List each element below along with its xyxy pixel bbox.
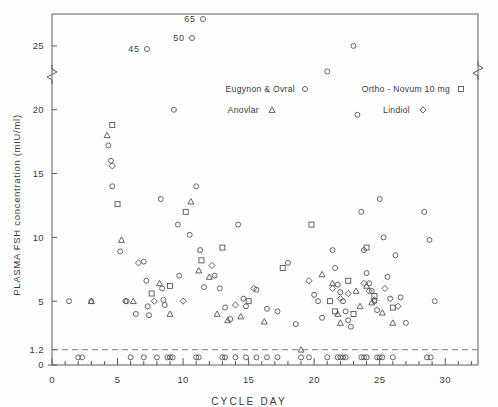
data-point-baseline (390, 355, 395, 360)
legend-marker-triangle (269, 107, 275, 112)
data-point-baseline (128, 355, 133, 360)
legend-symbol (303, 87, 308, 92)
data-point (329, 285, 335, 291)
data-point (110, 184, 115, 189)
data-point (212, 273, 217, 278)
data-point (427, 237, 432, 242)
y-axis-break-left (47, 65, 57, 84)
data-point (194, 184, 199, 189)
data-point (108, 158, 113, 163)
data-point (135, 260, 141, 266)
data-point (67, 299, 72, 304)
data-point (390, 320, 396, 325)
offscale-point (201, 17, 206, 22)
data-point (346, 318, 351, 323)
plot-frame (52, 14, 478, 365)
data-point (364, 271, 369, 276)
data-point (158, 197, 163, 202)
data-point (110, 123, 115, 128)
data-point (198, 248, 203, 253)
offscale-marker (190, 36, 195, 41)
data-point (167, 311, 173, 316)
data-point-baseline (254, 355, 259, 360)
data-point (217, 286, 222, 291)
legend-label: Ortho - Novum 10 mg (362, 84, 450, 94)
data-point (381, 235, 386, 240)
data-point (232, 302, 238, 308)
data-point (309, 222, 314, 227)
data-point (149, 291, 154, 296)
x-tick-label: 5 (115, 374, 121, 385)
data-point (241, 296, 246, 301)
data-point (145, 304, 150, 309)
y-tick-label: 20 (33, 104, 44, 115)
legend-label: Lindiol (383, 105, 410, 115)
data-point (180, 298, 186, 304)
data-point-baseline (233, 355, 238, 360)
y-tick-label: 1.2 (30, 344, 44, 355)
offscale-label: 65 (184, 14, 196, 24)
data-point (130, 298, 136, 303)
data-point (161, 297, 166, 302)
data-point (141, 259, 146, 264)
data-point (106, 143, 111, 148)
legend-label: Anovlar (228, 105, 259, 115)
x-axis-title: CYCLE DAY (211, 396, 287, 407)
data-point (335, 282, 340, 287)
data-point (385, 274, 390, 279)
data-point (151, 298, 157, 304)
x-tick-label: 25 (374, 374, 385, 385)
figure-scatter-plot: 01.2510152025051015202530CYCLE DAYPLASMA… (0, 0, 498, 407)
y-tick-label: 15 (33, 168, 44, 179)
data-point (398, 295, 403, 300)
legend-symbol (420, 107, 426, 113)
data-point (325, 69, 330, 74)
data-point (338, 290, 343, 295)
data-point (293, 322, 298, 327)
data-point (167, 283, 172, 288)
data-point (115, 202, 120, 207)
data-point (388, 296, 393, 301)
x-tick-label: 0 (49, 374, 55, 385)
legend-label: Eugynon & Ovral (226, 84, 295, 94)
data-point (372, 294, 377, 299)
data-point (209, 262, 215, 268)
data-point (395, 303, 401, 309)
data-point (162, 303, 167, 308)
series-2 (88, 132, 395, 352)
legend-marker-circle (303, 87, 308, 92)
data-point (280, 265, 285, 270)
y-tick-label: 0 (38, 359, 44, 370)
data-point (214, 311, 220, 316)
series-3 (110, 123, 396, 317)
data-point (146, 313, 151, 318)
data-point (319, 271, 325, 276)
data-point (156, 280, 162, 285)
legend-symbol (269, 107, 275, 112)
data-point (275, 309, 280, 314)
offscale-marker (201, 17, 206, 22)
data-point (375, 308, 380, 313)
data-point (357, 303, 363, 308)
legend-marker-diamond (420, 107, 426, 113)
data-point (238, 313, 244, 318)
data-point-baseline (306, 355, 311, 360)
y-axis-title: PLASMA FSH concentration (mIU/ml) (11, 114, 22, 295)
data-point (432, 299, 437, 304)
data-point-baseline (299, 355, 304, 360)
data-point (188, 199, 194, 204)
data-point (312, 292, 317, 297)
data-point (118, 237, 124, 242)
data-point (206, 274, 212, 279)
data-point (379, 310, 385, 315)
x-tick-label: 15 (243, 374, 254, 385)
offscale-marker (145, 47, 150, 52)
x-tick-label: 30 (440, 374, 451, 385)
data-point (223, 305, 228, 310)
data-point (175, 222, 180, 227)
data-point-baseline (325, 355, 330, 360)
data-point (187, 232, 192, 237)
legend-marker-square (459, 87, 464, 92)
offscale-label: 45 (128, 44, 140, 54)
data-point (422, 209, 427, 214)
